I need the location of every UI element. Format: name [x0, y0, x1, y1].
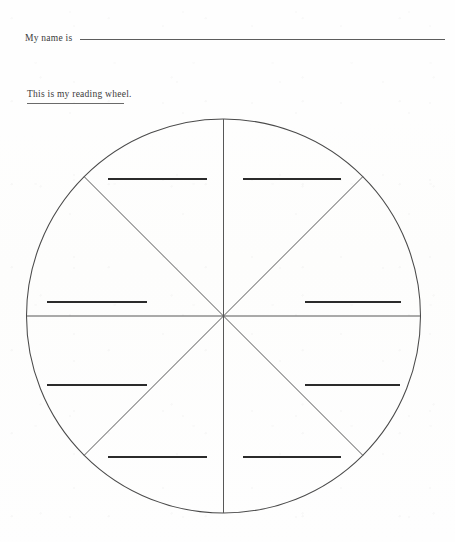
wheel-spokes-group	[27, 119, 421, 513]
worksheet-page: My name is This is my reading wheel.	[0, 0, 455, 542]
reading-wheel	[0, 0, 455, 542]
reading-wheel-diagram	[0, 0, 455, 542]
